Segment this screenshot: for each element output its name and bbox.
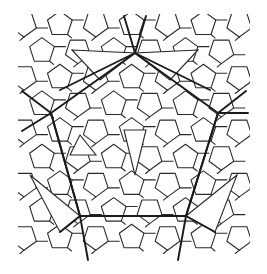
tile-edge	[211, 88, 215, 91]
pentagon-tile	[191, 64, 216, 88]
tile-edge	[68, 248, 72, 251]
tile-edge	[193, 115, 197, 118]
pentagon-tile	[66, 93, 91, 117]
pentagon-tile	[137, 200, 162, 224]
tile-edge	[74, 170, 78, 173]
thin-triangle	[124, 130, 146, 175]
thin-triangle	[70, 135, 96, 155]
tile-edge	[68, 35, 72, 38]
tile-edge	[235, 37, 239, 40]
pentagon-tile	[155, 227, 180, 251]
pentagon-tile	[119, 64, 144, 88]
pentagon-tile	[227, 67, 252, 91]
pentagon-tile	[173, 91, 198, 115]
tile-edge	[121, 168, 125, 171]
pentagon-tile	[227, 14, 252, 38]
pentagon-tile	[209, 147, 234, 171]
pentagon-tile	[119, 224, 144, 248]
tile-edge	[139, 194, 143, 197]
tile-edge	[235, 250, 239, 253]
tile-edge	[217, 64, 221, 67]
tile-edge	[50, 168, 54, 171]
pentagon-tile	[155, 14, 180, 38]
tile-edge	[164, 250, 168, 253]
tile-edge	[20, 37, 24, 40]
tile-edge	[92, 37, 96, 40]
tile-edge	[68, 194, 72, 197]
pentagon-tile	[12, 67, 37, 91]
tile-edge	[74, 117, 78, 120]
tile-edge	[92, 90, 96, 93]
tile-edge	[146, 170, 150, 173]
tile-edge	[50, 221, 54, 224]
tile-edge	[121, 221, 125, 224]
pentagon-tile	[101, 144, 126, 168]
tile-edge	[164, 197, 168, 200]
pentagon-tile	[119, 171, 144, 195]
tile-edge	[68, 141, 72, 144]
tile-edge	[164, 90, 168, 93]
pentagon-tile	[30, 91, 55, 115]
tile-edge	[235, 144, 239, 147]
tile-edge	[235, 90, 239, 93]
tile-edge	[211, 248, 215, 251]
tile-edge	[193, 168, 197, 171]
tile-edge	[164, 37, 168, 40]
pentagon-tile	[30, 144, 55, 168]
tile-edge	[74, 64, 78, 67]
pentagon-tile	[30, 38, 55, 62]
pentagon-tile	[48, 11, 73, 35]
tile-edge	[68, 88, 72, 91]
pentagon-tile	[155, 173, 180, 197]
pentagon-tile	[83, 173, 108, 197]
tile-edge	[193, 61, 197, 64]
pentagon-tile	[12, 227, 37, 251]
tile-edge	[92, 250, 96, 253]
pentagon-tile	[155, 120, 180, 144]
tile-edge	[235, 197, 239, 200]
pentagon-tile	[101, 198, 126, 222]
tile-edge	[74, 224, 78, 227]
pentagon-tile	[227, 227, 252, 251]
pentagon-tile	[227, 120, 252, 144]
tile-edge	[20, 144, 24, 147]
pentagon-tile	[101, 91, 126, 115]
tile-edge	[139, 88, 143, 91]
pentagon-tile	[137, 93, 162, 117]
heavy-spoke-line	[80, 216, 88, 260]
tiling-diagram	[0, 0, 267, 274]
tile-edge	[164, 144, 168, 147]
tile-edge	[211, 35, 215, 38]
tile-edge	[217, 170, 221, 173]
heavy-spoke-line	[22, 113, 51, 131]
pentagon-tile	[209, 40, 234, 64]
tile-edge	[146, 224, 150, 227]
pentagon-tile	[191, 11, 216, 35]
pentagon-tile	[83, 120, 108, 144]
pentagon-tile	[83, 227, 108, 251]
pentagon-tile	[48, 64, 73, 88]
tile-edge	[146, 117, 150, 120]
tile-edge	[92, 197, 96, 200]
tile-edge	[211, 141, 215, 144]
pentagon-tile	[48, 118, 73, 142]
pentagon-tile	[83, 14, 108, 38]
thin-triangle	[30, 175, 80, 232]
pentagon-tile	[119, 11, 144, 35]
tile-edge	[121, 115, 125, 118]
pentagon-tile	[173, 144, 198, 168]
tile-edge	[20, 250, 24, 253]
pentagon-tile	[12, 14, 37, 38]
tile-edge	[139, 248, 143, 251]
tile-edge	[92, 144, 96, 147]
tile-edge	[50, 61, 54, 64]
tile-edge	[20, 197, 24, 200]
tile-edge	[217, 117, 221, 120]
